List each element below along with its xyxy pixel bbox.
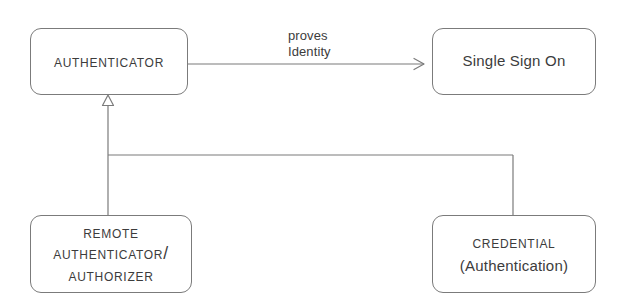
hollow-triangle-icon	[103, 95, 114, 106]
node-credential[interactable]: Credential(Authentication)	[432, 215, 596, 293]
node-credential-label-line-1: Credential	[472, 232, 555, 252]
node-single-sign-on[interactable]: Single Sign On	[432, 28, 596, 95]
node-single-sign-on-label: Single Sign On	[463, 52, 566, 70]
diagram-canvas: Authenticator Single Sign On Remote Auth…	[0, 0, 627, 308]
node-credential-label-line-2: (Authentication)	[460, 257, 568, 274]
node-remote-authenticator-label: Remote Authenticator/ Authorizer	[53, 222, 169, 286]
edge-generalization-shared	[103, 95, 514, 215]
edge-label-proves-identity: proves Identity	[288, 28, 331, 61]
node-remote-authenticator[interactable]: Remote Authenticator/ Authorizer	[30, 215, 192, 293]
node-authenticator-label: Authenticator	[54, 51, 164, 72]
node-credential-label: Credential(Authentication)	[460, 231, 568, 277]
node-authenticator[interactable]: Authenticator	[30, 28, 188, 95]
